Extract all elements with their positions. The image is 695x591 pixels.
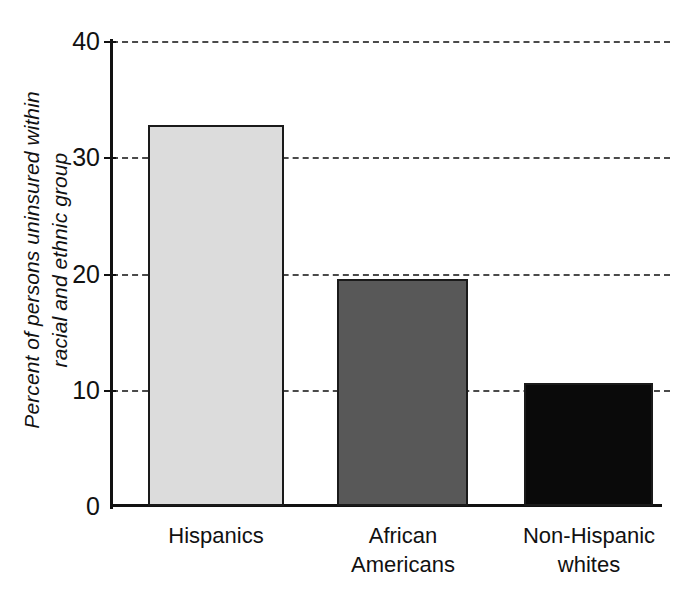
x-tick-label-non-hispanic-whites: Non-Hispanic whites (513, 521, 665, 579)
bar-non-hispanic-whites (524, 383, 653, 506)
bar-hispanics (148, 125, 284, 506)
x-tick-label-hispanics: Hispanics (146, 521, 286, 550)
y-tick-label-40: 40 (18, 27, 110, 56)
bar-chart-figure: Percent of persons uninsured within raci… (0, 0, 695, 591)
x-tick-label-african-americans-line-2: Americans (333, 550, 473, 579)
x-tick-label-non-hispanic-whites-line-1: Non-Hispanic (513, 521, 665, 550)
y-axis-tick-labels: 40 30 20 10 0 (0, 0, 110, 591)
x-tick-label-non-hispanic-whites-line-2: whites (513, 550, 665, 579)
y-tick-label-30: 30 (18, 143, 110, 172)
x-tick-label-hispanics-line-1: Hispanics (146, 521, 286, 550)
gridline-40 (112, 41, 670, 43)
y-axis-line (110, 39, 113, 509)
y-tick-label-0: 0 (18, 492, 110, 521)
y-tick-label-10: 10 (18, 376, 110, 405)
x-tick-label-african-americans-line-1: African (333, 521, 473, 550)
x-tick-label-african-americans: African Americans (333, 521, 473, 579)
y-tick-label-20: 20 (18, 260, 110, 289)
bar-african-americans (337, 279, 468, 506)
